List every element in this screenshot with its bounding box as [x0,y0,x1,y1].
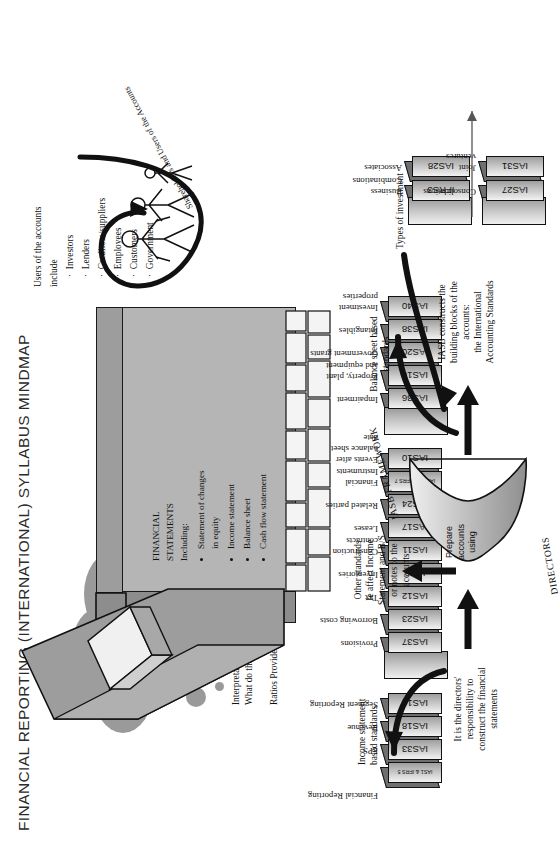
fs-heading-2: STATEMENTS [164,371,178,561]
fs-heading-1: FINANCIAL [150,371,164,561]
standard-label: Financial Instruments [336,466,378,488]
standard-label: Associates [364,162,402,173]
standard-book-IAS27[interactable]: IAS27 [486,180,544,201]
fs-item-0: Statement of changes in equity [195,371,223,549]
standard-code: IAS27 [502,185,528,196]
funnel-text: Prepare accounts using [444,507,479,577]
arrow-to-income-standards [360,645,450,775]
fs-item-2: Balance sheet [241,371,255,549]
fs-heading-3: Including: [178,371,192,561]
investment-connector-line [452,101,492,221]
arrow-funnel-to-iasb [436,377,496,457]
group-header: Financial Reporting [308,790,378,801]
arrow-directors-to-funnel [432,581,502,651]
standard-label: Business Combinations [353,175,402,197]
mindmap-canvas: FINANCIAL REPORTING (INTERNATIONAL) SYLL… [0,0,560,861]
iasb-note: IASB constructs the building blocks of t… [436,261,496,383]
standard-book-IAS31[interactable]: IAS31 [486,156,544,177]
standard-label: Related parties [325,500,378,511]
funnel-label-directors: DIRECTORS [539,536,560,596]
directors-note: It is the directors' responsibility to c… [452,649,500,769]
standard-code: IAS31 [502,161,528,172]
financial-statements-list: Statement of changes in equityIncome sta… [195,371,270,549]
fs-item-3: Cash flow statement [257,371,271,549]
fs-item-1: Income statement [225,371,239,549]
